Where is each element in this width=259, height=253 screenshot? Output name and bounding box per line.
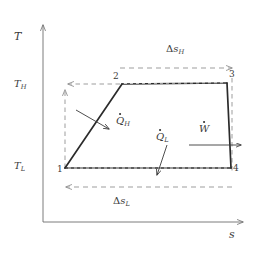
heat-rejected-low-label: QL: [156, 132, 169, 142]
delta-s-low-sub: L: [125, 200, 129, 208]
process-3-4-expansion: [227, 83, 231, 168]
q-high-main: Q: [116, 115, 124, 126]
heat-input-high-label: QH: [116, 116, 130, 126]
state-point-3-label: 3: [229, 70, 235, 79]
overdot-accent-icon: [159, 129, 161, 131]
tick-label-t-high-main: T: [14, 78, 21, 89]
energy-flow-arrows: [76, 110, 241, 175]
q-high-sub: H: [124, 120, 130, 128]
w-symbol: W: [199, 124, 209, 134]
x-axis-label: s: [229, 229, 235, 240]
q-low-symbol: Q: [156, 132, 164, 142]
delta-s-high-sub: H: [178, 48, 184, 56]
overdot-accent-icon: [203, 121, 205, 123]
q-low-sub: L: [164, 136, 168, 144]
axis-group: [43, 25, 243, 222]
process-1-2-compression: [65, 84, 122, 168]
delta-s-high-label: ΔsH: [166, 44, 184, 54]
tick-label-t-low-sub: L: [21, 165, 25, 173]
tick-label-t-high-sub: H: [21, 83, 27, 91]
state-point-1-label: 1: [57, 165, 63, 174]
state-point-4-label: 4: [233, 164, 239, 173]
tick-label-t-low-main: T: [14, 160, 21, 171]
tick-label-t-high: TH: [14, 79, 26, 89]
heat-rejected-arrow: [157, 145, 167, 175]
ts-diagram-figure: T TH TL s 1 2 3 4 QH QL W ΔsH ΔsL: [0, 0, 259, 253]
work-output-label: W: [199, 124, 209, 134]
w-main: W: [199, 123, 209, 134]
overdot-accent-icon: [119, 113, 121, 115]
q-low-main: Q: [156, 131, 164, 142]
tick-label-t-low: TL: [14, 161, 25, 171]
delta-s-low-label: ΔsL: [113, 196, 130, 206]
y-axis-label: T: [14, 31, 21, 42]
state-point-2-label: 2: [113, 72, 119, 81]
q-high-symbol: Q: [116, 116, 124, 126]
